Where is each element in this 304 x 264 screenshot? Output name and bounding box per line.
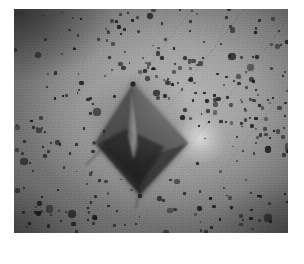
caption-bar: HV1 1 (1000 x) 10 µm <box>0 236 304 264</box>
inclusion-pits-layer <box>14 9 288 233</box>
micrograph-image <box>14 9 288 233</box>
figure-container: HV1 1 (1000 x) 10 µm <box>0 0 304 264</box>
